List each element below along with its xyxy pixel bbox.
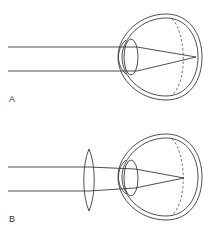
ray-lower-after-lens (89, 188, 135, 191)
ray-lower-refracted (135, 178, 184, 188)
convex-lens (84, 149, 95, 211)
crystalline-lens (124, 160, 138, 196)
eyeball-outer (118, 14, 202, 100)
panel-label-b: B (9, 214, 15, 224)
ray-upper-refracted (135, 169, 184, 178)
crystalline-lens (124, 39, 138, 75)
ray-upper-after-lens (89, 167, 135, 169)
panel-a: A (8, 14, 202, 104)
ray-lower-refracted (137, 57, 196, 71)
eyeball-outer (118, 134, 202, 220)
ray-upper-refracted (137, 47, 196, 57)
retina-dashed (172, 19, 183, 95)
eye-diagram: A B (0, 0, 216, 236)
panel-b: B (8, 134, 202, 224)
panel-label-a: A (9, 94, 15, 104)
eyeball-inner (122, 18, 198, 96)
eyeball-inner (122, 138, 198, 216)
